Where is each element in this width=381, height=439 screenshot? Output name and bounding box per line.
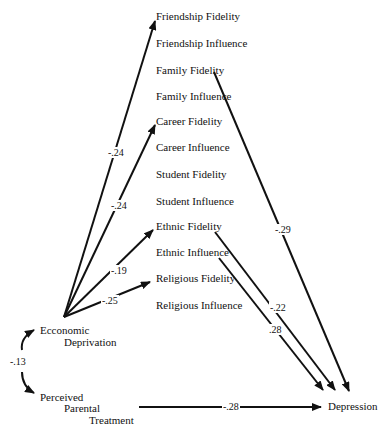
node-depression: Depression [328, 400, 378, 412]
coef-family-depression: -.29 [274, 224, 292, 235]
coef-ethnicfid-depression: -.22 [269, 302, 287, 313]
node-career-fidelity: Career Fidelity [156, 115, 222, 127]
node-friendship-fidelity: Friendship Fidelity [156, 10, 240, 22]
node-ethnic-fidelity: Ethnic Fidelity [156, 220, 222, 232]
coef-ethnicinf-depression: .28 [268, 324, 283, 335]
path-diagram: Friendship Fidelity Friendship Influence… [0, 0, 381, 439]
node-economic-line1: Ecconomic [40, 324, 89, 336]
node-family-fidelity: Family Fidelity [156, 64, 224, 76]
node-religious-fidelity: Religious Fidelity [156, 272, 235, 284]
node-economic-line2: Deprivation [64, 336, 117, 348]
node-student-fidelity: Student Fidelity [156, 168, 227, 180]
node-parental-line3: Treatment [89, 414, 134, 426]
node-ethnic-influence: Ethnic Influence [156, 246, 229, 258]
arrow-correlation-up [22, 330, 34, 350]
coef-econ-parental-corr: -.13 [9, 356, 27, 367]
node-parental-line2: Parental [64, 402, 100, 414]
node-student-influence: Student Influence [156, 195, 234, 207]
arrow-correlation-down [22, 372, 34, 393]
node-religious-influence: Religious Influence [156, 299, 242, 311]
coef-parental-depression: -.28 [222, 401, 240, 412]
node-friendship-influence: Friendship Influence [156, 37, 247, 49]
node-career-influence: Career Influence [156, 141, 230, 153]
coef-econ-career: -.24 [110, 200, 128, 211]
coef-econ-ethnic: -.19 [110, 265, 128, 276]
node-family-influence: Family Influence [156, 90, 231, 102]
coef-econ-friendship: -.24 [107, 147, 125, 158]
coef-econ-religious: -.25 [101, 295, 119, 306]
